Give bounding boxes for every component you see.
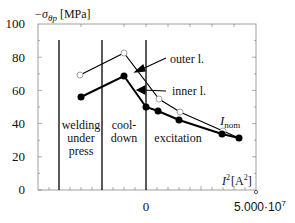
x-tick-max: 5.000·107: [234, 199, 286, 214]
series-inner-line: [81, 76, 239, 138]
svg-text:welding: welding: [62, 118, 101, 132]
svg-text:down: down: [111, 131, 138, 145]
svg-text:40: 40: [12, 116, 25, 131]
svg-text:cool-: cool-: [112, 118, 137, 132]
svg-text:press: press: [69, 144, 94, 158]
y-axis-label: −σθp[MPa]: [34, 7, 91, 23]
y-tick-labels: 0 20 40 60 80 100: [6, 16, 26, 197]
svg-text:60: 60: [12, 83, 25, 98]
phase-dividers: [59, 40, 146, 190]
inner-line-label: inner l.: [172, 84, 206, 98]
outer-line-label: outer l.: [170, 52, 204, 66]
svg-text:100: 100: [6, 16, 26, 31]
chart: 0 20 40 60 80 100 −σθp[MPa] welding unde…: [0, 0, 295, 223]
inom-label: Inom: [219, 113, 240, 130]
x-axis-label: I2[A2]: [221, 173, 252, 188]
axis-end-marker: [254, 190, 257, 193]
svg-text:under: under: [67, 131, 94, 145]
svg-text:0: 0: [19, 182, 26, 197]
svg-text:80: 80: [12, 50, 25, 65]
svg-text:excitation: excitation: [154, 131, 201, 145]
series-outer-line: [80, 53, 239, 138]
x-tick-zero: 0: [143, 199, 150, 214]
svg-text:20: 20: [12, 149, 25, 164]
phase-labels: welding under press cool- down excitatio…: [62, 118, 202, 158]
